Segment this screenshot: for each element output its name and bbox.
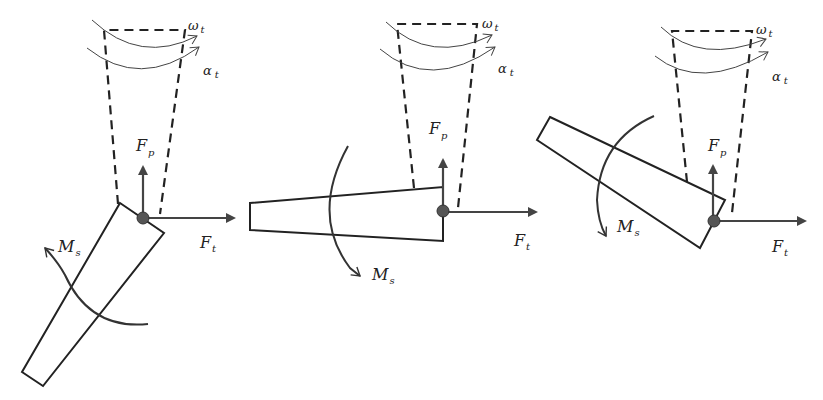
limb-segment [22, 203, 164, 386]
limb-segment [250, 187, 443, 241]
omega-label: ωt [188, 18, 206, 35]
alpha-arc-arrow [655, 52, 768, 73]
moment-label: Ms [57, 237, 81, 258]
ft-label: Ft [513, 231, 531, 252]
alpha-arc-arrow [380, 47, 495, 70]
ft-label: Ft [771, 237, 789, 258]
dashed-trapezoid-outline [104, 30, 185, 214]
dashed-trapezoid-outline [397, 24, 477, 208]
panel-1: ωt αt Ms Fp Ft [22, 18, 234, 386]
moment-label: Ms [616, 217, 640, 238]
omega-arc-arrow [92, 20, 197, 47]
fp-label: Fp [707, 136, 727, 158]
pivot-point [708, 215, 720, 227]
panel-2: ωt αt Ms Fp Ft [250, 16, 536, 286]
moment-arc-arrow [45, 248, 148, 325]
diagram-canvas: ωt αt Ms Fp Ft ωt αt Ms Fp Ft ωt αt M [0, 0, 823, 400]
fp-label: Fp [135, 136, 155, 158]
omega-label: ωt [482, 16, 500, 33]
moment-label: Ms [371, 265, 395, 286]
alpha-label: αt [498, 61, 515, 78]
ft-label: Ft [199, 233, 217, 254]
moment-arc-arrow [329, 146, 360, 276]
pivot-point [137, 212, 149, 224]
alpha-label: αt [772, 69, 789, 86]
panel-3: ωt αt Ms Fp Ft [537, 22, 805, 258]
fp-label: Fp [428, 119, 448, 141]
omega-label: ωt [756, 22, 774, 39]
alpha-label: αt [203, 63, 220, 80]
pivot-point [437, 205, 449, 217]
